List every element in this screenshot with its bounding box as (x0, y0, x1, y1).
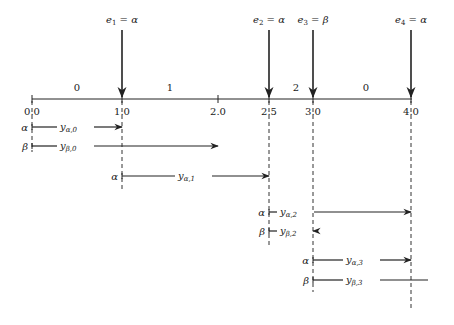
symbol-label: α (302, 255, 309, 266)
tick-label: 3.0 (305, 106, 321, 117)
segment-β-2: βyβ,2 (258, 225, 314, 238)
tick-label: 2.5 (261, 106, 277, 117)
time-axis: 0.01.02.02.53.04.00120 (24, 82, 419, 117)
tick-label: 4.0 (403, 106, 419, 117)
segment-α-2: αyα,2 (258, 206, 411, 219)
timeline-diagram: 0.01.02.02.53.04.00120 e1 = αe2 = αe3 = … (0, 0, 454, 325)
tick-label: 2.0 (210, 106, 226, 117)
symbol-label: β (258, 226, 265, 237)
interval-label: 2 (293, 82, 299, 93)
tick-label: 0.0 (24, 106, 40, 117)
segment-α-3: αyα,3 (302, 254, 411, 267)
symbol-label: α (258, 207, 265, 218)
interval-segments: αyα,0βyβ,0αyα,1αyα,2βyβ,2αyα,3βyβ,3 (21, 121, 428, 287)
symbol-label: β (302, 275, 309, 286)
tick-label: 1.0 (114, 106, 130, 117)
segment-β-0: βyβ,0 (21, 140, 218, 153)
segment-α-0: αyα,0 (21, 121, 122, 134)
interval-label: 1 (167, 82, 173, 93)
event-label: e2 = α (253, 14, 285, 27)
segment-label: yβ,3 (345, 274, 363, 287)
segment-label: yα,0 (59, 121, 78, 134)
event-label: e3 = β (298, 14, 329, 27)
segment-label: yα,3 (345, 254, 364, 267)
segment-label: yα,1 (177, 170, 195, 183)
symbol-label: α (111, 171, 118, 182)
event-markers: e1 = αe2 = αe3 = βe4 = α (106, 14, 427, 97)
event-label: e4 = α (395, 14, 427, 27)
segment-α-1: αyα,1 (111, 170, 269, 183)
symbol-label: β (21, 141, 28, 152)
interval-label: 0 (74, 82, 80, 93)
interval-label: 0 (363, 82, 369, 93)
segment-label: yβ,0 (59, 140, 77, 153)
symbol-label: α (21, 122, 28, 133)
segment-β-3: βyβ,3 (302, 274, 428, 287)
segment-label: yβ,2 (279, 225, 297, 238)
segment-label: yα,2 (279, 206, 298, 219)
event-label: e1 = α (106, 14, 138, 27)
